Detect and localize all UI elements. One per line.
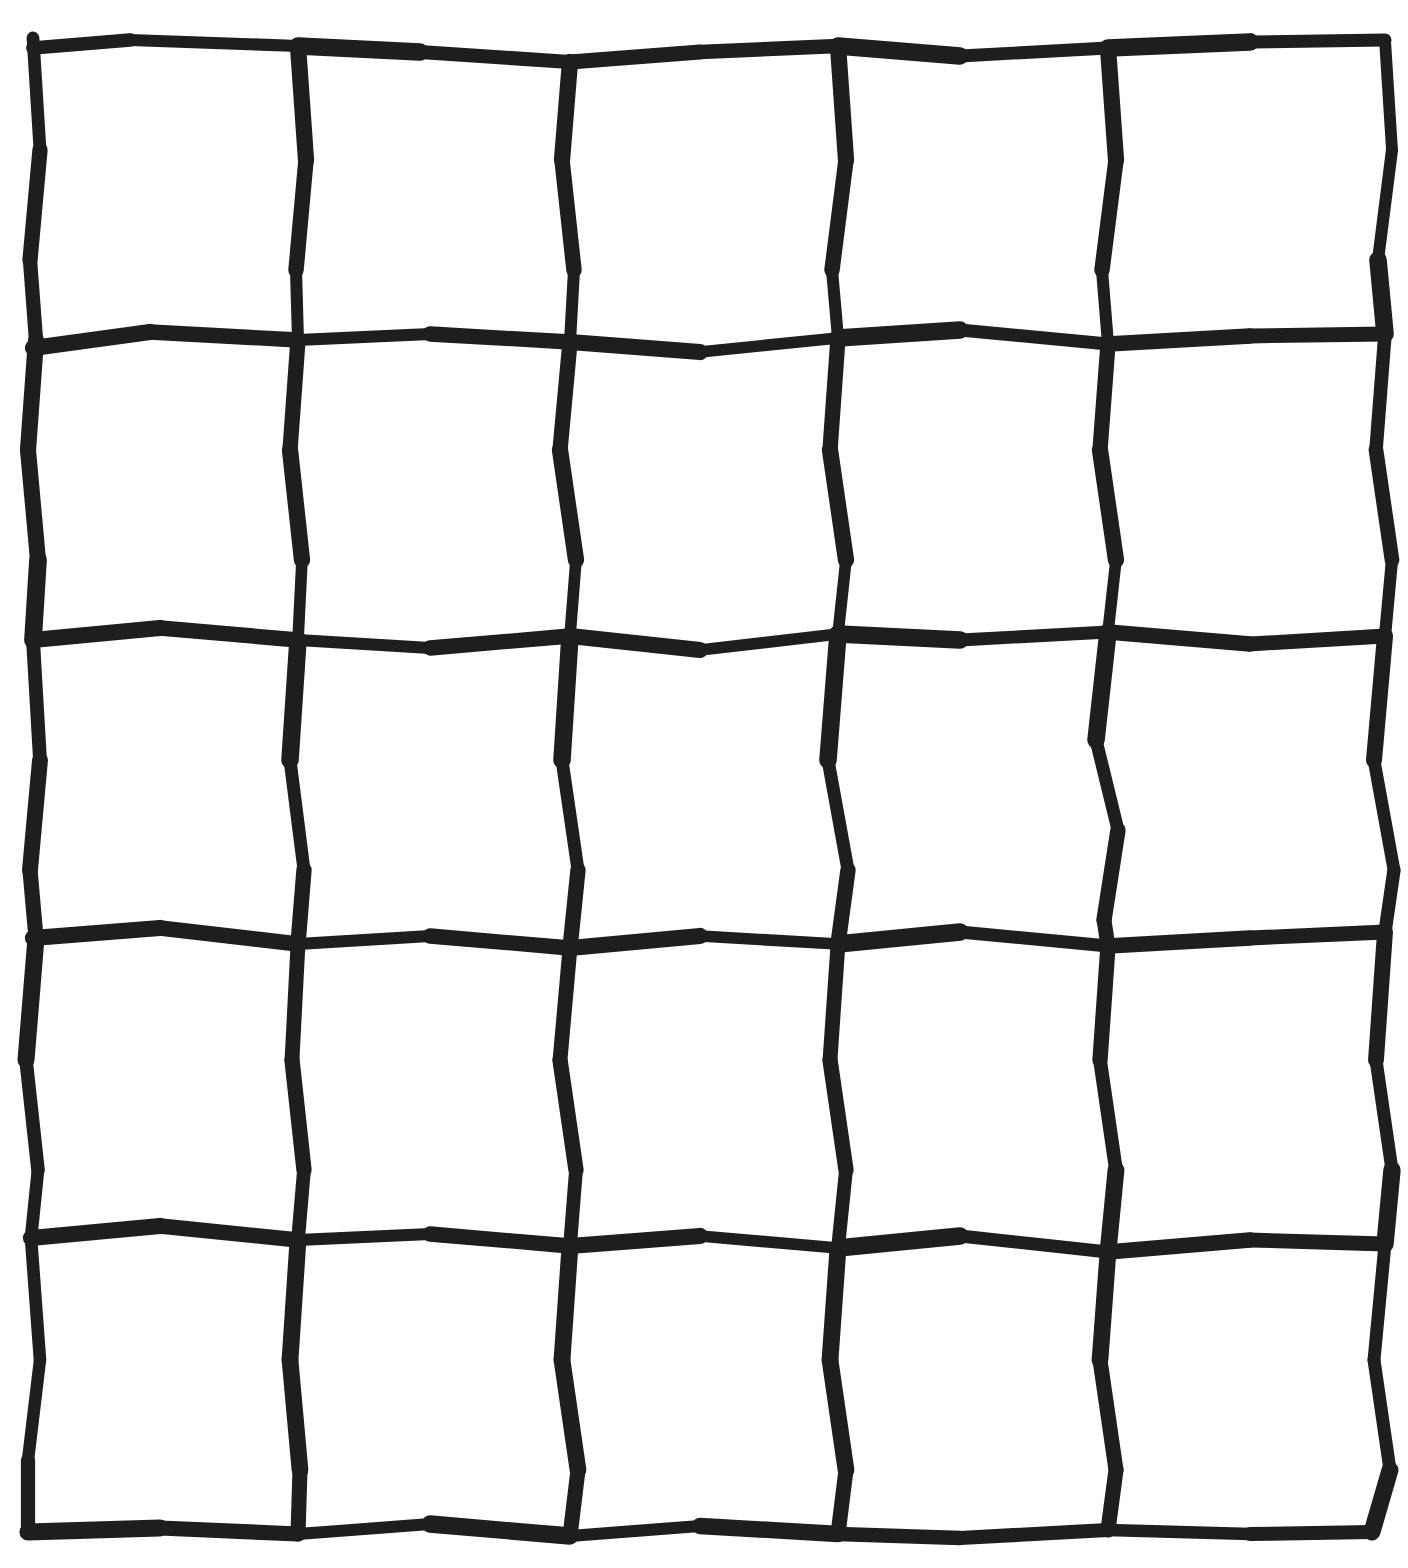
h-line-4-seg	[1250, 1240, 1385, 1244]
v-line-left-border-seg	[30, 760, 40, 870]
h-line-bottom-border-seg	[430, 1524, 570, 1536]
v-line-2-seg	[560, 342, 570, 450]
h-line-top-border-seg	[420, 52, 570, 62]
v-line-2-seg	[570, 560, 576, 636]
cell-r3c4	[838, 638, 1108, 930]
h-line-4-seg	[570, 1236, 700, 1246]
v-line-1-seg	[298, 560, 302, 640]
v-line-2-seg	[570, 1170, 576, 1246]
drawing-canvas	[0, 0, 1408, 1568]
v-line-4-seg	[1100, 946, 1108, 1060]
v-line-3-seg	[830, 944, 838, 1060]
v-line-1-seg	[298, 1470, 300, 1534]
v-line-2-seg	[562, 1246, 570, 1360]
v-line-1-seg	[290, 1240, 298, 1360]
v-line-3-seg	[830, 338, 838, 450]
v-line-2-seg	[562, 62, 570, 160]
v-line-1-seg	[296, 270, 298, 340]
cell-r5c2	[298, 1230, 570, 1532]
v-line-3-seg	[832, 270, 838, 338]
v-line-left-border-seg	[31, 1170, 38, 1238]
cell-r2c1	[33, 340, 298, 638]
v-line-2-seg	[570, 270, 574, 342]
h-line-top-border-seg	[33, 40, 130, 48]
h-line-bottom-border-seg	[160, 1528, 298, 1534]
h-line-1-seg	[838, 330, 960, 338]
v-line-3-seg	[838, 46, 846, 160]
cell-r2c5	[1108, 340, 1385, 638]
cell-r1c4	[838, 38, 1108, 340]
h-line-top-border-seg	[960, 48, 1108, 56]
h-line-bottom-border-seg	[28, 1528, 160, 1532]
cell-r5c1	[33, 1230, 298, 1532]
v-line-3-seg	[838, 870, 848, 944]
h-line-2-seg	[1250, 636, 1385, 644]
h-line-1-seg	[1108, 336, 1250, 344]
cell-r3c2	[298, 638, 570, 930]
cell-r2c2	[298, 340, 570, 638]
v-line-1-seg	[296, 160, 306, 270]
h-line-1-seg	[298, 334, 430, 340]
h-line-bottom-border-seg	[960, 1530, 1108, 1538]
v-line-4-seg	[1100, 1252, 1108, 1360]
v-line-1-seg	[290, 640, 298, 760]
v-line-right-border-seg	[1378, 260, 1385, 334]
cell-r5c5	[1108, 1230, 1385, 1532]
h-line-top-border-seg	[1108, 42, 1250, 48]
h-line-bottom-border-seg	[700, 1526, 838, 1534]
v-line-left-border-seg	[30, 870, 36, 938]
v-line-right-border-seg	[1376, 334, 1385, 450]
v-line-3-seg	[830, 1248, 838, 1360]
v-line-right-border-seg	[1385, 1170, 1392, 1244]
v-line-4-seg	[1102, 270, 1108, 344]
cell-r4c2	[298, 930, 570, 1230]
cell-r1c1	[33, 38, 298, 340]
v-line-left-border-seg	[30, 150, 40, 260]
v-line-2-seg	[562, 636, 570, 760]
v-line-left-border-seg	[33, 640, 40, 760]
h-line-3-seg	[33, 928, 160, 938]
h-line-1-seg	[150, 332, 298, 340]
cell-r1c3	[570, 38, 838, 340]
h-line-3-seg	[700, 936, 838, 944]
v-line-3-seg	[828, 634, 838, 760]
v-line-2-seg	[560, 948, 570, 1060]
v-line-4-seg	[1100, 344, 1108, 450]
v-line-1-seg	[290, 340, 298, 450]
cell-r1c5	[1108, 38, 1385, 340]
h-line-top-border-seg	[838, 46, 960, 56]
cell-r2c3	[570, 340, 838, 638]
v-line-4-seg	[1108, 48, 1116, 160]
v-line-1-seg	[292, 944, 298, 1060]
v-line-left-border-seg	[26, 938, 36, 1060]
h-line-bottom-border-seg	[838, 1534, 960, 1538]
v-line-1-seg	[290, 1360, 300, 1470]
h-line-3-seg	[298, 936, 430, 944]
v-line-2-seg	[570, 1470, 578, 1536]
v-line-right-border-seg	[1374, 636, 1385, 760]
grid-cells-layer	[33, 38, 1385, 1532]
cell-r4c1	[33, 930, 298, 1230]
h-line-3-seg	[1250, 932, 1385, 938]
v-line-left-border-seg	[30, 260, 36, 340]
v-line-right-border-seg	[1385, 560, 1392, 636]
h-line-top-border-seg	[570, 52, 700, 62]
h-line-1-seg	[1250, 334, 1385, 336]
v-line-3-seg	[838, 1170, 846, 1248]
h-line-3-seg	[838, 932, 960, 944]
v-line-left-border-seg	[33, 38, 40, 150]
v-line-left-border-seg	[31, 1238, 40, 1360]
h-line-2-seg	[838, 634, 960, 640]
v-line-left-border-seg	[28, 340, 36, 450]
h-line-4-seg	[298, 1234, 430, 1240]
h-line-2-seg	[298, 640, 430, 648]
h-line-bottom-border-seg	[1108, 1530, 1250, 1534]
cell-r4c3	[570, 930, 838, 1230]
cell-r3c5	[1108, 638, 1385, 930]
h-line-2-seg	[960, 632, 1108, 640]
h-line-4-seg	[838, 1236, 960, 1248]
h-line-top-border-seg	[700, 46, 838, 52]
v-line-1-seg	[298, 46, 306, 160]
v-line-3-seg	[838, 560, 846, 634]
cell-r5c3	[570, 1230, 838, 1532]
